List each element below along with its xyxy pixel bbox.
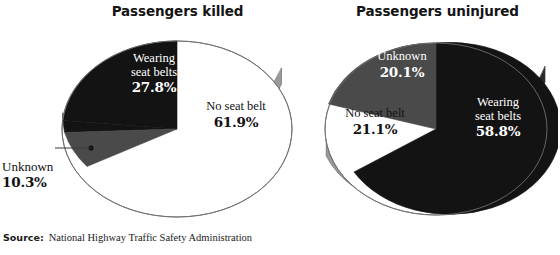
slice-label-unknown-killed: Unknown 10.3% — [2, 160, 94, 190]
figure-canvas: Passengers killed — [0, 0, 560, 255]
slice-label-value: 58.8% — [450, 124, 546, 139]
slice-label-name-line2: seat belts — [106, 66, 202, 80]
chart-title-passengers-uninjured: Passengers uninjured — [325, 3, 550, 19]
slice-label-name-line1: Unknown — [2, 160, 94, 174]
slice-label-value: 20.1% — [356, 65, 448, 80]
slice-label-name-line1: No seat belt — [183, 100, 289, 114]
source-label: Source: — [3, 232, 44, 243]
slice-label-name-line2: seat belts — [450, 110, 546, 124]
slice-label-no-seat-belt-uninjured: No seat belt 21.1% — [322, 107, 428, 136]
chart-title-passengers-killed: Passengers killed — [60, 3, 295, 19]
slice-label-value: 21.1% — [322, 122, 428, 137]
slice-label-name-line1: Wearing — [450, 96, 546, 110]
slice-label-unknown-uninjured: Unknown 20.1% — [356, 50, 448, 79]
slice-label-name-line1: Unknown — [356, 50, 448, 64]
slice-label-wearing-seat-belts-uninjured: Wearing seat belts 58.8% — [450, 96, 546, 139]
slice-label-no-seat-belt-killed: No seat belt 61.9% — [183, 100, 289, 129]
source-note: Source:National Highway Traffic Safety A… — [3, 232, 252, 243]
slice-label-value: 61.9% — [183, 115, 289, 130]
slice-label-value: 27.8% — [106, 80, 202, 95]
slice-label-name-line1: No seat belt — [322, 107, 428, 121]
slice-label-value: 10.3% — [2, 175, 94, 190]
slice-label-wearing-seat-belts-killed: Wearing seat belts 27.8% — [106, 52, 202, 95]
source-text: National Highway Traffic Safety Administ… — [49, 232, 252, 243]
slice-label-name-line1: Wearing — [106, 52, 202, 66]
